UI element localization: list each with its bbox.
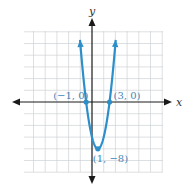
y-axis-top-arrow-icon <box>89 18 96 26</box>
parabola-graph: (−1, 0)(3, 0)(1, −8) x y <box>0 0 189 188</box>
data-point <box>107 99 112 104</box>
y-axis-label: y <box>88 5 96 18</box>
data-point-label: (3, 0) <box>114 90 141 101</box>
data-point-label: (1, −8) <box>93 153 128 164</box>
x-axis-right-arrow-icon <box>164 99 172 106</box>
data-point <box>95 146 100 151</box>
x-axis-left-arrow-icon <box>12 99 20 106</box>
data-point-label: (−1, 0) <box>53 90 88 101</box>
y-axis-bottom-arrow-icon <box>89 176 96 184</box>
x-axis-label: x <box>176 96 183 109</box>
